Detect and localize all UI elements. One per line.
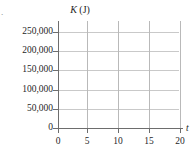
gridline-vertical	[180, 21, 181, 128]
y-axis-tick-label: 150,000	[5, 65, 53, 75]
x-axis-tick-label: 0	[43, 136, 73, 146]
gridline-vertical	[149, 21, 150, 128]
y-axis-tick-label: 0	[5, 123, 53, 133]
gridline-vertical	[118, 21, 119, 128]
plot-area	[58, 21, 185, 128]
y-axis-title: K (J)	[50, 4, 110, 15]
x-axis-tick	[180, 129, 181, 133]
x-axis-tick	[118, 129, 119, 133]
x-axis-line	[58, 128, 183, 129]
y-axis-tick-label: 50,000	[5, 104, 53, 114]
y-axis-unit: (J)	[79, 4, 90, 15]
gridline-vertical	[87, 21, 88, 128]
y-axis-symbol: K	[70, 4, 77, 15]
y-axis-tick	[53, 109, 58, 110]
y-axis-tick-labels: 250,000 200,000 150,000 100,000 50,000 0	[2, 0, 53, 154]
y-axis-tick-label: 100,000	[5, 85, 53, 95]
y-axis-tick	[53, 32, 58, 33]
x-axis-tick-label: 5	[72, 136, 102, 146]
y-axis-tick	[53, 90, 58, 91]
x-axis-tick-label: 20	[165, 136, 193, 146]
x-axis-tick-label: 10	[103, 136, 133, 146]
x-axis-title: t	[186, 123, 189, 133]
y-axis-tick	[53, 51, 58, 52]
x-axis-tick-label: 15	[134, 136, 164, 146]
y-axis-line	[58, 21, 59, 129]
x-axis-tick	[58, 129, 59, 133]
y-axis-tick	[53, 70, 58, 71]
y-axis-tick-label: 200,000	[5, 46, 53, 56]
y-axis-tick-label: 250,000	[5, 27, 53, 37]
x-axis-tick	[149, 129, 150, 133]
chart-figure: . K (J) 250,000 200,000 150,000 100,000 …	[0, 0, 193, 154]
x-axis-tick	[87, 129, 88, 133]
